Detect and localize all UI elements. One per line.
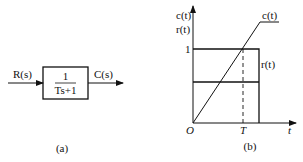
y-tick-1: 1 — [185, 43, 191, 55]
block-diagram: R(s) 1 Ts+1 C(s) (a) — [8, 67, 123, 155]
input-label: R(s) — [13, 68, 32, 81]
r-t-label: r(t) — [261, 58, 275, 71]
caption-a: (a) — [56, 142, 69, 155]
transfer-denominator: Ts+1 — [55, 84, 77, 96]
x-tick-T: T — [240, 124, 247, 136]
response-plot: c(t) r(t) 1 O T t r(t) c(t) (b) — [176, 6, 296, 153]
x-axis-label: t — [288, 124, 292, 136]
origin-label: O — [186, 124, 194, 136]
figure: R(s) 1 Ts+1 C(s) (a) c(t) r(t) 1 O T t r… — [0, 0, 303, 162]
c-t-curve — [193, 22, 279, 123]
transfer-numerator: 1 — [63, 70, 69, 82]
caption-b: (b) — [244, 140, 257, 153]
r-t-pulse — [193, 49, 259, 123]
c-t-label: c(t) — [262, 9, 278, 22]
diagram-canvas: R(s) 1 Ts+1 C(s) (a) c(t) r(t) 1 O T t r… — [0, 0, 303, 162]
y-label-top: c(t) — [176, 9, 192, 22]
output-label: C(s) — [94, 68, 113, 81]
y-label-bottom: r(t) — [176, 23, 190, 36]
